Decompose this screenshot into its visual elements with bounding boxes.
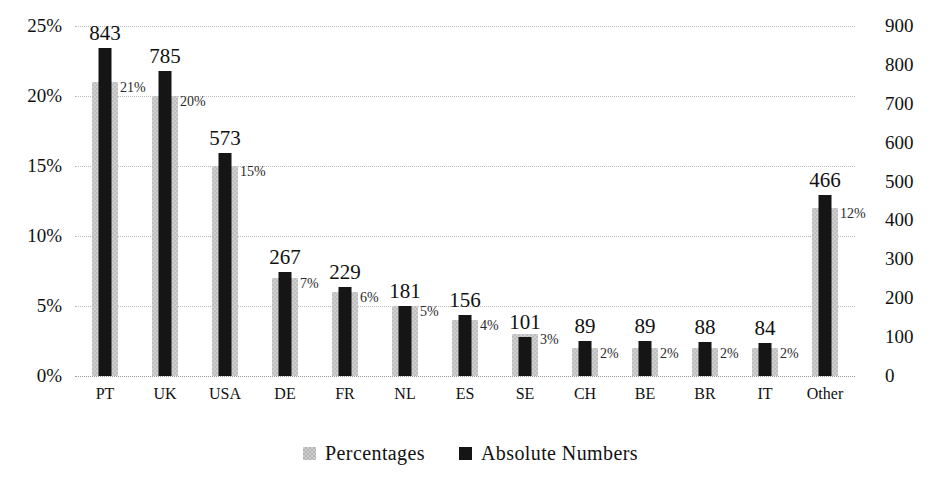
bar-value-label: 573: [209, 128, 241, 149]
left-axis-tick-2: 10%: [0, 226, 62, 245]
category-label-pt: PT: [75, 386, 135, 402]
category-label-de: DE: [255, 386, 315, 402]
left-axis-tick-0: 0%: [0, 366, 62, 385]
right-axis-tick-3: 300: [885, 249, 941, 268]
bar-group: 57315%: [212, 26, 238, 376]
bar-percent-label: 12%: [840, 207, 866, 221]
bar-group: 892%: [572, 26, 598, 376]
right-axis-tick-6: 600: [885, 133, 941, 152]
bar-group: 46612%: [812, 26, 838, 376]
bar-absolute-numbers: [399, 306, 412, 376]
bar-value-label: 101: [509, 312, 541, 333]
category-label-usa: USA: [195, 386, 255, 402]
legend-label: Absolute Numbers: [481, 443, 638, 463]
right-axis-tick-9: 900: [885, 16, 941, 35]
category-label-es: ES: [435, 386, 495, 402]
bar-value-label: 229: [329, 262, 361, 283]
bar-group: 892%: [632, 26, 658, 376]
legend-swatch-icon: [459, 447, 472, 460]
bar-chart: 0%5%10%15%20%25% 01002003004005006007008…: [0, 0, 941, 496]
bar-group: 1564%: [452, 26, 478, 376]
legend-label: Percentages: [325, 443, 425, 463]
bar-absolute-numbers: [819, 195, 832, 376]
bar-value-label: 156: [449, 290, 481, 311]
right-axis-tick-8: 800: [885, 55, 941, 74]
bar-percent-label: 4%: [480, 319, 499, 333]
bar-percent-label: 2%: [780, 347, 799, 361]
bar-group: 2677%: [272, 26, 298, 376]
bar-absolute-numbers: [219, 153, 232, 376]
bar-absolute-numbers: [99, 48, 112, 376]
category-label-br: BR: [675, 386, 735, 402]
right-axis-tick-2: 200: [885, 288, 941, 307]
bar-group: 1815%: [392, 26, 418, 376]
left-axis-tick-3: 15%: [0, 156, 62, 175]
bar-value-label: 89: [575, 316, 596, 337]
bar-value-label: 84: [755, 318, 776, 339]
gridline-0: [75, 376, 855, 377]
bar-group: 882%: [692, 26, 718, 376]
bar-absolute-numbers: [459, 315, 472, 376]
bar-percent-label: 5%: [420, 305, 439, 319]
left-axis-tick-5: 25%: [0, 16, 62, 35]
chart-legend: PercentagesAbsolute Numbers: [0, 443, 941, 463]
bar-group: 2296%: [332, 26, 358, 376]
right-axis-tick-1: 100: [885, 327, 941, 346]
category-label-ch: CH: [555, 386, 615, 402]
bar-absolute-numbers: [579, 341, 592, 376]
right-axis-tick-5: 500: [885, 172, 941, 191]
bar-absolute-numbers: [339, 287, 352, 376]
category-label-fr: FR: [315, 386, 375, 402]
bar-percent-label: 20%: [180, 95, 206, 109]
bar-value-label: 181: [389, 281, 421, 302]
category-label-be: BE: [615, 386, 675, 402]
category-label-se: SE: [495, 386, 555, 402]
left-axis-tick-4: 20%: [0, 86, 62, 105]
bar-group: 78520%: [152, 26, 178, 376]
plot-area: 84321%78520%57315%2677%2296%1815%1564%10…: [75, 26, 855, 376]
bar-absolute-numbers: [159, 71, 172, 376]
bar-absolute-numbers: [279, 272, 292, 376]
legend-item-pct[interactable]: Percentages: [303, 443, 425, 463]
bar-absolute-numbers: [759, 343, 772, 376]
bar-percent-label: 2%: [720, 347, 739, 361]
legend-item-abs[interactable]: Absolute Numbers: [459, 443, 638, 463]
left-axis-tick-1: 5%: [0, 296, 62, 315]
bar-value-label: 466: [809, 170, 841, 191]
bar-percent-label: 6%: [360, 291, 379, 305]
category-label-uk: UK: [135, 386, 195, 402]
bar-value-label: 88: [695, 317, 716, 338]
right-axis-tick-4: 400: [885, 210, 941, 229]
bar-percent-label: 7%: [300, 277, 319, 291]
category-label-nl: NL: [375, 386, 435, 402]
bar-absolute-numbers: [519, 337, 532, 376]
legend-swatch-icon: [303, 447, 316, 460]
right-axis-tick-0: 0: [885, 366, 941, 385]
bar-group: 84321%: [92, 26, 118, 376]
category-label-other: Other: [795, 386, 855, 402]
bar-percent-label: 3%: [540, 333, 559, 347]
bar-percent-label: 21%: [120, 81, 146, 95]
bar-percent-label: 15%: [240, 165, 266, 179]
bar-absolute-numbers: [639, 341, 652, 376]
category-label-it: IT: [735, 386, 795, 402]
bar-absolute-numbers: [699, 342, 712, 376]
bar-value-label: 843: [89, 23, 121, 44]
bar-percent-label: 2%: [660, 347, 679, 361]
bar-group: 842%: [752, 26, 778, 376]
bar-value-label: 267: [269, 247, 301, 268]
right-axis-tick-7: 700: [885, 94, 941, 113]
bar-value-label: 89: [635, 316, 656, 337]
bar-percent-label: 2%: [600, 347, 619, 361]
bar-group: 1013%: [512, 26, 538, 376]
bar-value-label: 785: [149, 46, 181, 67]
